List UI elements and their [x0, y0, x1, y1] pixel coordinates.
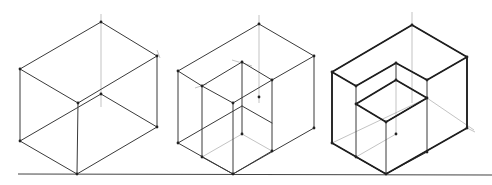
outline-edge — [412, 25, 467, 57]
vertex-dot — [385, 173, 388, 176]
outline-edge — [386, 98, 427, 122]
vertex-dot — [313, 127, 316, 130]
outline-edge — [396, 63, 427, 80]
construction-line — [332, 98, 427, 143]
vertex-dot — [100, 93, 103, 96]
outline-edge — [356, 63, 396, 86]
edge — [77, 103, 78, 174]
edge — [259, 24, 314, 56]
edge — [178, 71, 202, 86]
outline-edge — [396, 80, 427, 98]
edge — [20, 22, 101, 69]
outline-edge — [427, 57, 467, 80]
vertex-dot — [395, 133, 398, 136]
edge — [20, 141, 77, 174]
vertex-dot — [156, 55, 159, 58]
vertex-dot — [411, 24, 414, 27]
edge — [20, 69, 78, 103]
edge — [233, 151, 272, 174]
edge — [101, 94, 157, 127]
edge — [78, 56, 157, 103]
edge — [272, 56, 314, 80]
vertex-dot — [100, 21, 103, 24]
vertex-dot — [232, 173, 235, 176]
vertex-dot — [331, 71, 334, 74]
vertex-dot — [201, 156, 204, 159]
vertex-dot — [271, 150, 274, 153]
vertex-dot — [355, 103, 358, 106]
vertex-dot — [258, 96, 261, 99]
outline-edge — [332, 72, 356, 86]
edge — [178, 106, 242, 143]
vertex-dot — [466, 56, 469, 59]
vertex-dot — [241, 133, 244, 136]
edge — [242, 62, 272, 80]
vertex-dot — [331, 142, 334, 145]
vertex-dot — [385, 121, 388, 124]
edge — [77, 127, 157, 174]
vertex-dot — [466, 127, 469, 130]
vertex-dot — [355, 156, 358, 159]
edge — [101, 22, 157, 56]
vertex-dot — [355, 85, 358, 88]
vertex-dot — [426, 79, 429, 82]
construction-line — [242, 134, 272, 151]
construction-line — [202, 134, 242, 157]
ground-line — [18, 174, 492, 175]
vertex-dot — [19, 140, 22, 143]
outline-edge — [356, 80, 396, 104]
edge — [178, 24, 259, 71]
vertex-dot — [156, 126, 159, 129]
vertex-dot — [19, 68, 22, 71]
edge — [202, 86, 233, 103]
vertex-dot — [426, 97, 429, 100]
edge — [202, 62, 242, 86]
vertex-dot — [201, 85, 204, 88]
vertex-dot — [241, 61, 244, 64]
isometric-diagram — [0, 0, 492, 185]
vertex-dot — [77, 102, 80, 105]
vertex-dot — [426, 151, 429, 154]
vertex-dot — [313, 55, 316, 58]
outline-edge — [356, 104, 386, 122]
vertex-dot — [271, 79, 274, 82]
vertex-dot — [395, 62, 398, 65]
construction-line — [356, 134, 396, 157]
vertex-dot — [232, 102, 235, 105]
vertex-dot — [76, 173, 79, 176]
vertex-dot — [177, 142, 180, 145]
edge — [233, 80, 272, 103]
edge — [20, 94, 101, 141]
vertex-dot — [395, 79, 398, 82]
edge — [242, 106, 272, 123]
vertex-dot — [177, 70, 180, 73]
figure-plain-box — [19, 14, 160, 175]
figure-box-with-inset-cube — [331, 12, 475, 175]
vertex-dot — [258, 23, 261, 26]
figure-box-with-cut — [177, 15, 316, 175]
outline-edge — [332, 143, 386, 174]
edge — [202, 157, 233, 174]
